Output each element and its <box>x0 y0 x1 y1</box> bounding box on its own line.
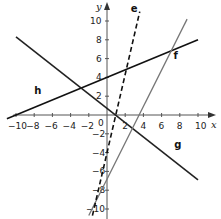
x-tick-label: 6 <box>159 121 165 131</box>
y-tick-label: −4 <box>92 148 106 158</box>
x-axis-label: x <box>211 119 217 130</box>
x-tick-label: 10 <box>195 121 207 131</box>
x-tick-label: −8 <box>26 121 40 131</box>
y-tick-label: 8 <box>96 35 102 45</box>
label-f: f <box>173 50 178 61</box>
line-graph: xy0−10−8−6−4−2246810108642−2−4−6−8−10hgf… <box>0 0 221 219</box>
y-tick-label: −10 <box>86 204 105 214</box>
x-axis-arrow-icon <box>208 112 216 118</box>
x-tick-label: 4 <box>140 121 146 131</box>
x-tick-label: −4 <box>63 121 77 131</box>
x-tick-label: 8 <box>177 121 183 131</box>
x-tick-label: −10 <box>8 121 27 131</box>
label-g: g <box>174 139 181 150</box>
y-axis-label: y <box>95 1 102 12</box>
x-tick-label: −6 <box>44 121 58 131</box>
y-axis-arrow-icon <box>104 2 110 10</box>
origin-label: 0 <box>98 118 104 128</box>
y-tick-label: −2 <box>92 129 105 139</box>
label-e: e <box>131 3 138 14</box>
label-h: h <box>34 85 41 96</box>
y-tick-label: 6 <box>96 54 102 64</box>
y-tick-label: 10 <box>90 16 102 26</box>
